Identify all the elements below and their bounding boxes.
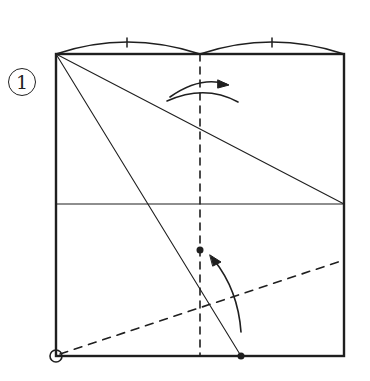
lower-valley-fold [60, 260, 344, 354]
source-dot-icon [238, 353, 245, 360]
target-dot-icon [197, 247, 204, 254]
fold-unfold-arrow-lower [167, 93, 238, 102]
diagonal-crease-shallow [56, 54, 344, 204]
diagonal-crease-steep [56, 54, 241, 356]
arrowhead-icon [218, 80, 229, 88]
fold-diagram [0, 0, 370, 381]
division-arc-left [56, 42, 200, 54]
arrowhead-icon [210, 255, 221, 266]
